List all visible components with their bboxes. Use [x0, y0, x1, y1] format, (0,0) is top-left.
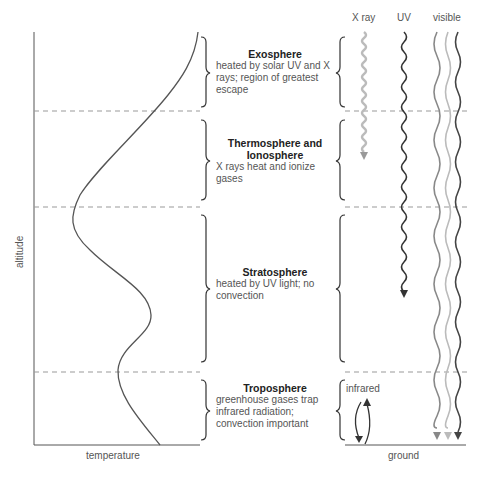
left-braces [201, 37, 210, 440]
uv-arrowhead [400, 290, 408, 298]
layer-troposphere: Troposphere greenhouse gases trap infrar… [216, 382, 334, 430]
layer-thermosphere: Thermosphere and Ionosphere X rays heat … [216, 137, 334, 185]
uv-label: UV [397, 12, 411, 23]
infrared-label: infrared [346, 383, 380, 394]
visible-label: visible [433, 12, 461, 23]
ground-label: ground [388, 450, 419, 461]
visible-wave-1 [434, 32, 440, 428]
infrared-down-arrow [356, 402, 362, 438]
x-axis-label: temperature [86, 450, 140, 461]
y-axis-label: altitude [14, 236, 25, 268]
layer-desc: X rays heat and ionize gases [216, 161, 315, 184]
layer-title: Exosphere [216, 48, 334, 60]
layer-stratosphere: Stratosphere heated by UV light; no conv… [216, 266, 334, 302]
xray-wave [362, 32, 366, 152]
infrared-up-arrow [365, 404, 370, 444]
layer-title: Stratosphere [216, 266, 334, 278]
layer-desc: heated by UV light; no convection [216, 278, 314, 301]
layer-title: Thermosphere and Ionosphere [216, 137, 334, 161]
visible-wave-2 [446, 32, 451, 428]
temperature-curve [73, 32, 198, 445]
layer-title: Troposphere [216, 382, 334, 394]
layer-desc: heated by solar UV and X rays; region of… [216, 60, 330, 95]
uv-wave [402, 32, 407, 292]
right-braces [336, 37, 345, 440]
layer-exosphere: Exosphere heated by solar UV and X rays;… [216, 48, 334, 96]
xray-label: X ray [352, 12, 375, 23]
layer-desc: greenhouse gases trap infrared radiation… [216, 394, 318, 429]
xray-arrowhead [360, 152, 368, 160]
